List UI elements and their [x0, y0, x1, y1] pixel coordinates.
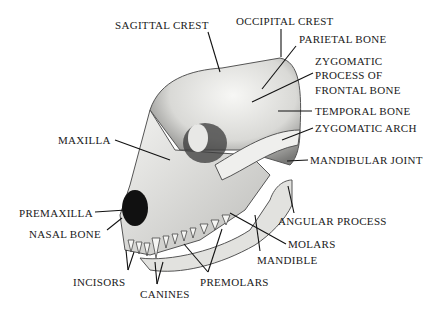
label-angular-process: ANGULAR PROCESS	[278, 215, 387, 227]
label-zygomatic-process-3: FRONTAL BONE	[315, 84, 401, 96]
label-mandible: MANDIBLE	[257, 254, 317, 266]
label-zygomatic-process-1: ZYGOMATIC	[315, 55, 382, 67]
label-incisors: INCISORS	[73, 276, 126, 288]
label-mandibular-joint: MANDIBULAR JOINT	[310, 154, 423, 166]
label-maxilla: MAXILLA	[58, 134, 111, 146]
label-sagittal-crest: SAGITTAL CREST	[115, 19, 209, 31]
label-temporal-bone: TEMPORAL BONE	[315, 105, 410, 117]
label-occipital-crest: OCCIPITAL CREST	[236, 15, 334, 27]
label-molars: MOLARS	[288, 238, 336, 250]
label-canines: CANINES	[140, 288, 190, 300]
label-premaxilla: PREMAXILLA	[19, 207, 93, 219]
label-zygomatic-arch: ZYGOMATIC ARCH	[315, 122, 417, 134]
label-premolars: PREMOLARS	[200, 276, 269, 288]
label-nasal-bone: NASAL BONE	[29, 228, 101, 240]
label-zygomatic-process-2: PROCESS OF	[315, 69, 383, 81]
label-parietal-bone: PARIETAL BONE	[299, 33, 386, 45]
skull-diagram: SAGITTAL CREST OCCIPITAL CREST PARIETAL …	[0, 0, 443, 314]
